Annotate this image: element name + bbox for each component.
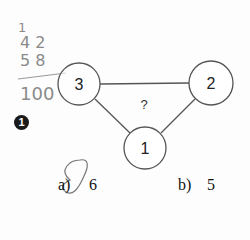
option-b-value[interactable]: 5 (207, 176, 215, 194)
svg-text:3: 3 (75, 76, 84, 93)
svg-text:4 2: 4 2 (20, 33, 45, 52)
edge-3-1 (95, 99, 130, 133)
option-b-letter[interactable]: b) (178, 176, 191, 194)
node-2: 2 (189, 61, 233, 105)
svg-text:2: 2 (207, 75, 216, 92)
svg-text:5 8: 5 8 (20, 51, 45, 70)
unknown-center-label: ? (140, 97, 147, 112)
svg-text:1: 1 (141, 140, 150, 157)
question-number-badge: 1 (14, 115, 29, 130)
option-a-letter[interactable]: a) (58, 176, 70, 194)
svg-text:100: 100 (20, 83, 54, 104)
edge-3-2 (100, 83, 189, 84)
node-3: 3 (58, 63, 100, 105)
option-a-value[interactable]: 6 (89, 176, 97, 194)
node-1: 1 (124, 127, 166, 169)
edge-2-1 (161, 99, 195, 133)
